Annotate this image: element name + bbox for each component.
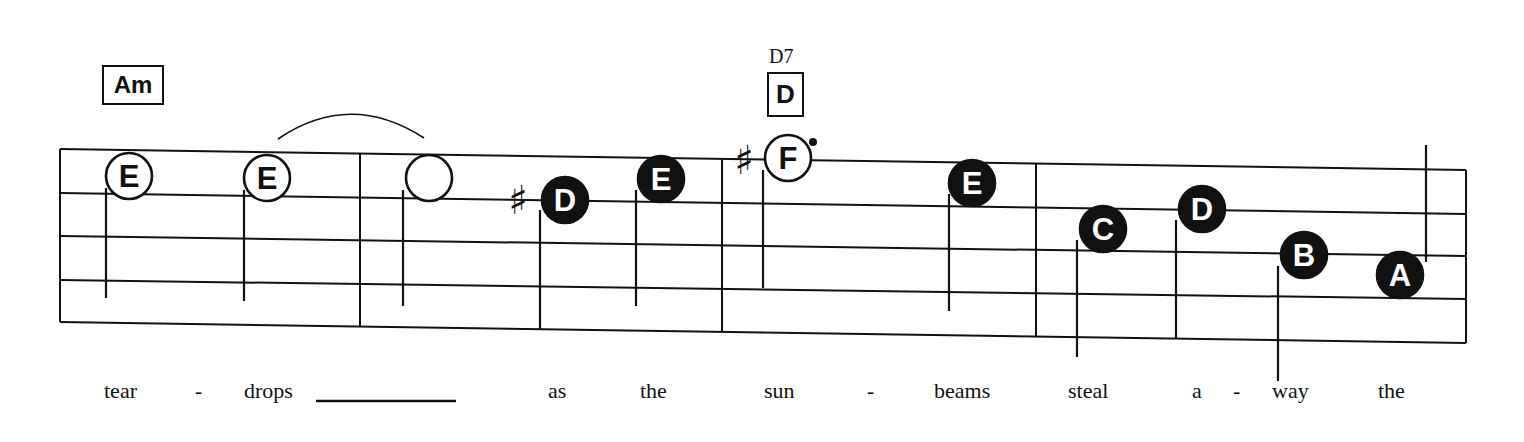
note-letter: E xyxy=(119,159,140,194)
chord-box-am: Am xyxy=(102,65,164,105)
lyric-syllable: way xyxy=(1272,378,1309,404)
staff-line xyxy=(60,322,1466,343)
chord-box-d: D xyxy=(767,72,804,117)
sharp-icon: ♯ xyxy=(508,177,527,223)
tie xyxy=(278,114,424,139)
lyric-syllable: drops xyxy=(244,378,293,404)
lyric-hyphen: - xyxy=(867,378,874,404)
music-staff: EED♯EF♯ECDBA xyxy=(0,0,1524,442)
lyric-hyphen: - xyxy=(1233,378,1240,404)
note-letter: E xyxy=(257,161,278,196)
notehead xyxy=(406,155,452,201)
note-letter: E xyxy=(962,166,983,201)
note-letter: C xyxy=(1092,212,1114,247)
lyric-syllable: tear xyxy=(104,378,137,404)
lyric-syllable: a xyxy=(1192,378,1202,404)
note-letter: E xyxy=(651,162,672,197)
lyric-syllable: the xyxy=(640,378,667,404)
lyric-syllable: sun xyxy=(764,378,795,404)
lyric-hyphen: - xyxy=(195,378,202,404)
augmentation-dot xyxy=(809,138,817,146)
note-letter: A xyxy=(1389,258,1411,293)
lyric-syllable: steal xyxy=(1068,378,1108,404)
lyric-syllable: the xyxy=(1378,378,1405,404)
note-letter: D xyxy=(554,183,576,218)
note-letter: D xyxy=(1191,192,1213,227)
lyric-syllable: as xyxy=(548,378,566,404)
sharp-icon: ♯ xyxy=(734,137,753,183)
lyric-syllable: beams xyxy=(934,378,990,404)
chord-name-d7: D7 xyxy=(769,45,793,68)
note-letter: B xyxy=(1293,238,1315,273)
note-letter: F xyxy=(779,141,798,176)
